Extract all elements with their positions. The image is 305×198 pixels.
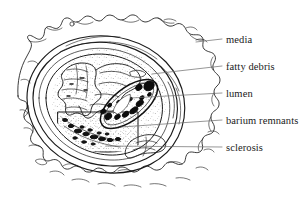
label-barium-remnants: barium remnants [226,116,298,127]
label-lumen: lumen [226,89,253,100]
label-sclerosis: sclerosis [226,143,263,154]
cross-section-drawing [0,0,305,198]
figure-arterial-cross-section: media fatty debris lumen barium remnants… [0,0,305,198]
label-fatty-debris: fatty debris [226,62,275,73]
label-media: media [226,35,252,46]
